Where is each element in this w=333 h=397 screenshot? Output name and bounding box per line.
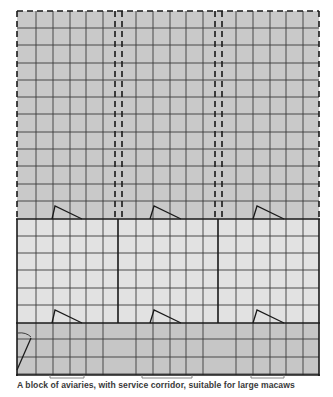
- figure-caption: A block of aviaries, with service corrid…: [17, 380, 295, 390]
- outdoor-flights: [17, 11, 319, 219]
- indoor-shelters: [17, 219, 319, 323]
- aviary-plan-diagram: [0, 0, 333, 397]
- service-corridor: [17, 323, 319, 375]
